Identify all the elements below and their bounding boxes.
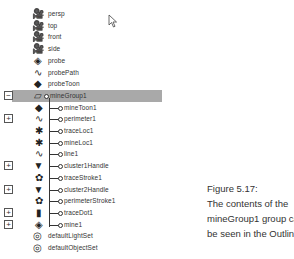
locator-icon: ✱ — [33, 137, 44, 148]
outliner-item-label: mineGroup1 — [50, 90, 87, 102]
tree-node-dot — [58, 188, 63, 193]
curve-icon: ∿ — [33, 113, 44, 124]
outliner-item-perimeterStroke1[interactable]: ✿perimeterStroke1 — [0, 195, 165, 207]
outliner-item-label: mineLoc1 — [64, 137, 93, 149]
outliner-item-defaultLightSet[interactable]: ◎defaultLightSet — [0, 230, 165, 242]
caption-line: mineGroup1 group can — [207, 211, 294, 226]
outliner-item-top[interactable]: 🎥top — [0, 20, 165, 32]
set-icon: ◎ — [32, 230, 43, 241]
outliner-item-label: front — [48, 31, 62, 43]
outliner-item-label: traceStroke1 — [64, 172, 102, 184]
tree-node-dot — [58, 117, 63, 122]
outliner-item-probe[interactable]: ◈probe — [0, 55, 165, 67]
tree-node-dot — [58, 223, 63, 228]
outliner-item-label: cluster2Handle — [64, 184, 109, 196]
caption-line: The contents of the — [207, 196, 294, 211]
cluster-icon: ▼ — [33, 160, 44, 171]
expand-icon[interactable]: + — [4, 208, 13, 217]
outliner-item-cluster1Handle[interactable]: +▼cluster1Handle — [0, 160, 165, 172]
tree-node-dot — [58, 141, 63, 146]
camera-icon: 🎥 — [32, 43, 43, 54]
outliner-item-label: traceLoc1 — [64, 125, 93, 137]
tree-node-dot — [58, 152, 63, 157]
expand-icon[interactable]: + — [4, 220, 13, 229]
outliner-item-mineLoc1[interactable]: ✱mineLoc1 — [0, 137, 165, 149]
outliner-item-mine1[interactable]: +◈mine1 — [0, 219, 165, 231]
outliner-item-label: mine1 — [64, 219, 82, 231]
figure-caption: Figure 5.17: The contents of the mineGro… — [207, 181, 294, 241]
outliner-item-label: line1 — [64, 148, 78, 160]
mesh-icon: ◈ — [33, 219, 44, 230]
tree-node-dot — [58, 211, 63, 216]
outliner-item-label: side — [48, 43, 60, 55]
outliner-item-cluster2Handle[interactable]: +▼cluster2Handle — [0, 184, 165, 196]
tree-node-dot — [58, 106, 63, 111]
caption-line: Figure 5.17: — [207, 181, 294, 196]
outliner-item-label: defaultLightSet — [48, 230, 93, 242]
surface-icon: ▮ — [33, 207, 44, 218]
outliner-item-label: top — [48, 20, 57, 32]
caption-line: be seen in the Outliner. — [207, 226, 294, 241]
mesh-icon: ◈ — [32, 55, 43, 66]
stroke-icon: ✿ — [33, 172, 44, 183]
outliner-item-traceDot1[interactable]: +▮traceDot1 — [0, 207, 165, 219]
camera-icon: 🎥 — [32, 8, 43, 19]
outliner-item-label: persp — [48, 8, 65, 20]
outliner-item-side[interactable]: 🎥side — [0, 43, 165, 55]
outliner-item-label: probeToon — [48, 78, 80, 90]
curve-icon: ∿ — [33, 148, 44, 159]
cluster-icon: ▼ — [33, 184, 44, 195]
outliner-item-line1[interactable]: ∿line1 — [0, 148, 165, 160]
outliner-item-label: probe — [48, 55, 65, 67]
outliner-item-label: perimeter1 — [64, 113, 96, 125]
outliner-item-defaultObjectSet[interactable]: ◎defaultObjectSet — [0, 242, 165, 254]
outliner-item-label: traceDot1 — [64, 207, 93, 219]
toon-icon: ◆ — [33, 102, 44, 113]
toon-icon: ◆ — [32, 78, 43, 89]
outliner-item-persp[interactable]: 🎥persp — [0, 8, 165, 20]
tree-node-dot — [58, 164, 63, 169]
expand-icon[interactable]: + — [4, 114, 13, 123]
camera-icon: 🎥 — [32, 20, 43, 31]
outliner-item-perimeter1[interactable]: +∿perimeter1 — [0, 113, 165, 125]
outliner-item-probePath[interactable]: ∿probePath — [0, 67, 165, 79]
tree-vertical-line — [49, 98, 50, 227]
locator-icon: ✱ — [33, 125, 44, 136]
set-icon: ◎ — [32, 242, 43, 253]
expand-icon[interactable]: + — [4, 185, 13, 194]
outliner-item-label: perimeterStroke1 — [64, 195, 115, 207]
outliner-item-front[interactable]: 🎥front — [0, 31, 165, 43]
outliner-item-traceLoc1[interactable]: ✱traceLoc1 — [0, 125, 165, 137]
outliner-item-label: cluster1Handle — [64, 160, 109, 172]
tree-node-dot — [58, 129, 63, 134]
group-icon: ▱ — [32, 90, 43, 101]
outliner-item-mineToon1[interactable]: ◆mineToon1 — [0, 102, 165, 114]
tree-node-dot — [58, 199, 63, 204]
outliner-item-probeToon[interactable]: ◆probeToon — [0, 78, 165, 90]
camera-icon: 🎥 — [32, 31, 43, 42]
outliner-item-label: defaultObjectSet — [48, 242, 98, 254]
tree-node-dot — [58, 176, 63, 181]
outliner-item-traceStroke1[interactable]: ✿traceStroke1 — [0, 172, 165, 184]
mouse-cursor-icon — [108, 14, 118, 28]
curve-icon: ∿ — [32, 67, 43, 78]
outliner-item-label: probePath — [48, 67, 79, 79]
outliner-item-label: mineToon1 — [64, 102, 97, 114]
expand-icon[interactable]: + — [4, 161, 13, 170]
stroke-icon: ✿ — [33, 195, 44, 206]
outliner-item-mineGroup1[interactable]: −▱mineGroup1 — [0, 90, 165, 102]
collapse-icon[interactable]: − — [4, 91, 13, 100]
